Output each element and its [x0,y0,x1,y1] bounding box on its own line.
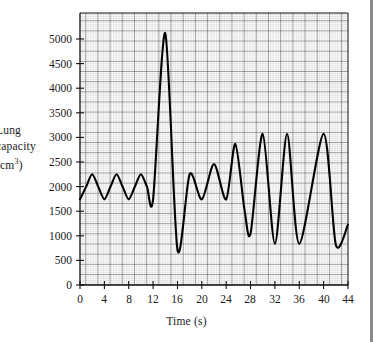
chart-figure: Lung capacity (cm3) Time (s) [0,0,373,342]
y-tick-label-4000: 4000 [18,82,72,94]
y-tick-label-500: 500 [18,254,72,266]
y-tick-label-0: 0 [18,279,72,291]
y-tick-label-3000: 3000 [18,131,72,143]
x-axis-label: Time (s) [0,315,373,327]
grid-major [80,13,348,285]
x-tick-label-36: 36 [285,293,313,305]
y-tick-label-1500: 1500 [18,205,72,217]
y-tick-label-2500: 2500 [18,156,72,168]
y-tick-label-3500: 3500 [18,107,72,119]
y-tick-label-2000: 2000 [18,181,72,193]
y-tick-label-4500: 4500 [18,58,72,70]
x-tick-label-28: 28 [236,293,264,305]
y-tick-label-5000: 5000 [18,33,72,45]
y-tick-label-1000: 1000 [18,230,72,242]
x-tick-label-4: 4 [90,293,118,305]
x-tick-label-44: 44 [334,293,362,305]
x-tick-label-16: 16 [163,293,191,305]
